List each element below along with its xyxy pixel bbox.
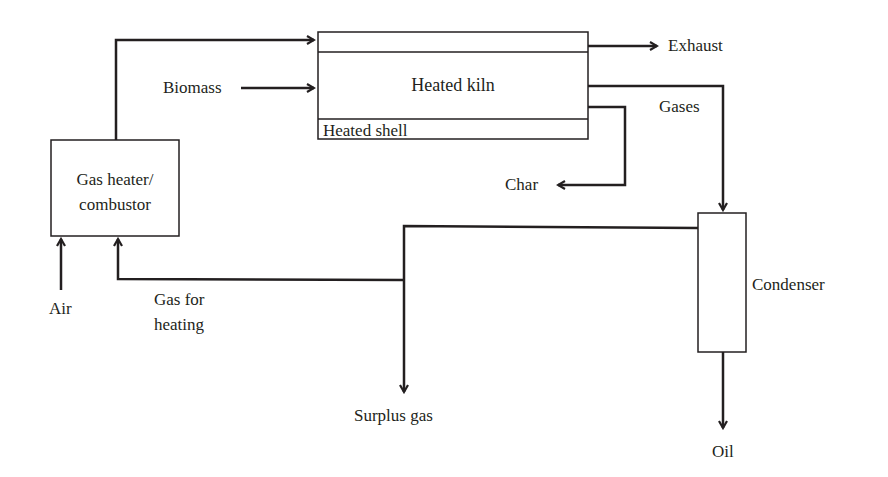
condenser-box [698,213,746,352]
gases-label: Gases [659,98,700,115]
kiln-label: Heated kiln [318,76,588,94]
biomass-label: Biomass [163,79,222,96]
gas-heater-label: Gas heater/ combustor [51,167,179,217]
gas-for-heating-label-line1: Gas for [154,287,205,312]
gas-heater-label-line2: combustor [51,192,179,217]
condenser-label: Condenser [752,276,825,293]
gas-for-heating-label-line2: heating [154,312,205,337]
gas-for-heating-arrow [118,239,404,280]
char-label: Char [505,176,538,193]
condenser-gas-out-line [404,226,698,392]
exhaust-label: Exhaust [668,37,723,54]
air-label: Air [49,300,72,317]
gases-arrow [588,86,723,210]
kiln-shell-label: Heated shell [323,122,408,139]
gas-heater-label-line1: Gas heater/ [51,167,179,192]
surplus-gas-label: Surplus gas [354,407,433,424]
gas-for-heating-label: Gas for heating [154,287,205,337]
oil-label: Oil [712,443,734,460]
flow-diagram-canvas [0,0,888,477]
